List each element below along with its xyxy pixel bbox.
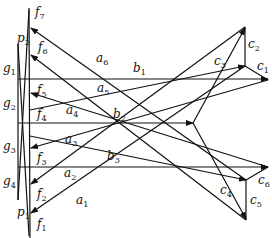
label-f3: f3 bbox=[37, 152, 47, 167]
label-p2: p2 bbox=[17, 32, 30, 47]
label-f7: f7 bbox=[35, 6, 45, 21]
label-g2: g2 bbox=[3, 97, 16, 112]
label-g1: g1 bbox=[3, 62, 16, 77]
label-f2: f2 bbox=[37, 188, 47, 203]
label-f4: f4 bbox=[37, 108, 47, 123]
label-c5: c5 bbox=[250, 194, 262, 209]
label-a5: a5 bbox=[97, 82, 109, 97]
label-g3: g3 bbox=[3, 140, 16, 155]
label-f5: f5 bbox=[37, 84, 47, 99]
label-b2: b2 bbox=[113, 108, 126, 123]
label-c2: c2 bbox=[248, 38, 260, 53]
label-f1: f1 bbox=[37, 218, 47, 233]
label-c3: c3 bbox=[214, 55, 226, 70]
label-b1: b1 bbox=[133, 62, 146, 77]
label-a4: a4 bbox=[66, 104, 78, 119]
label-b3: b3 bbox=[107, 150, 120, 165]
a5-line bbox=[31, 55, 246, 220]
to-c6-line bbox=[30, 136, 246, 180]
label-g4: g4 bbox=[3, 175, 16, 190]
label-c4: c4 bbox=[220, 184, 232, 199]
line-diagram: f7 p2 f6 g1 f5 g2 f4 g3 f3 g4 f2 p1 f1 a… bbox=[0, 0, 272, 238]
label-a2: a2 bbox=[64, 167, 76, 182]
label-p1: p1 bbox=[17, 206, 30, 221]
a6-line bbox=[31, 28, 246, 180]
label-a3: a3 bbox=[65, 133, 77, 148]
label-a6: a6 bbox=[96, 52, 108, 67]
label-a1: a1 bbox=[76, 194, 88, 209]
label-c1: c1 bbox=[257, 60, 269, 75]
label-c6: c6 bbox=[258, 174, 270, 189]
label-f6: f6 bbox=[38, 41, 48, 56]
